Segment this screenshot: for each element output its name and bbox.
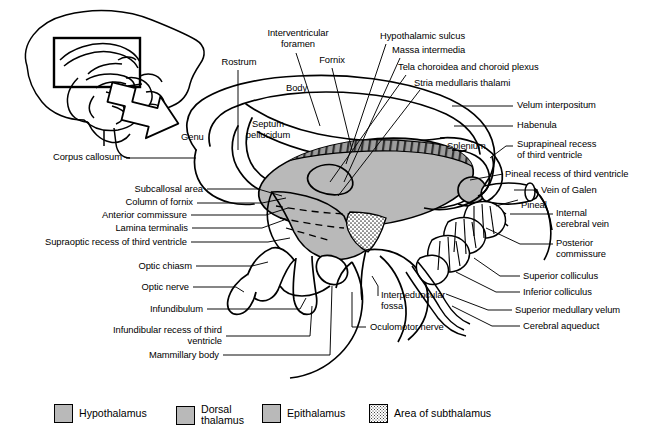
label-habenula: Habenula — [517, 120, 557, 131]
label-body: Body — [286, 83, 307, 94]
label-fornix: Fornix — [303, 55, 361, 66]
label-mammillary-body: Mammillary body — [0, 350, 219, 361]
legend-item-epithalamus: Epithalamus — [262, 404, 345, 423]
label-infundibulum: Infundibulum — [0, 304, 203, 315]
legend-swatch-area-of-subthalamus — [369, 404, 388, 423]
legend-item-hypothalamus: Hypothalamus — [54, 404, 147, 423]
label-superior-colliculus: Superior colliculus — [523, 271, 598, 282]
label-lamina-terminalis: Lamina terminalis — [0, 223, 188, 234]
legend-swatch-epithalamus — [262, 404, 281, 423]
label-anterior-commissure: Anterior commissure — [0, 210, 187, 221]
legend-item-area-of-subthalamus: Area of subthalamus — [369, 404, 491, 423]
label-posterior-commissure: Posterior commissure — [556, 238, 606, 259]
label-genu: Genu — [181, 132, 204, 143]
label-interventricular-foramen: Interventricular foramen — [246, 28, 350, 49]
label-interpeduncular-fossa: Interpeduncular fossa — [381, 290, 445, 311]
label-vein-of-galen: Vein of Galen — [541, 185, 597, 196]
label-velum-interpositum: Velum interpositum — [517, 100, 596, 111]
infundibulum — [293, 256, 317, 314]
label-septum-pellucidum: Septum pellucidum — [236, 119, 300, 140]
label-rostrum: Rostrum — [195, 57, 283, 68]
label-oculomotor-nerve: Oculomotor nerve — [370, 322, 444, 333]
label-infundibular-recess: Infundibular recess of third ventricle — [0, 325, 222, 346]
legend-item-dorsal-thalamus: Dorsal thalamus — [176, 404, 244, 427]
colliculi-group — [416, 202, 505, 285]
label-hypothalamic-sulcus: Hypothalamic sulcus — [380, 31, 465, 42]
anatomy-figure: Rostrum Interventricular foramen Fornix … — [0, 0, 647, 448]
legend-label-epithalamus: Epithalamus — [287, 408, 345, 419]
label-stria-medullaris-thalami: Stria medullaris thalami — [414, 78, 510, 89]
legend-swatch-dorsal-thalamus — [176, 406, 195, 425]
label-subcallosal-area: Subcallosal area — [0, 184, 203, 195]
label-internal-cerebral-vein: Internal cerebral vein — [556, 208, 609, 229]
inset-roi-box — [54, 38, 140, 87]
legend-label-area-of-subthalamus: Area of subthalamus — [394, 408, 491, 419]
inset-pointer-arrow — [101, 82, 184, 145]
label-massa-intermedia: Massa intermedia — [392, 45, 465, 56]
label-suprapineal-recess: Suprapineal recess of third ventricle — [517, 139, 596, 160]
label-pineal: Pineal — [521, 200, 547, 211]
label-cerebral-aqueduct: Cerebral aqueduct — [523, 321, 599, 332]
legend-label-hypothalamus: Hypothalamus — [79, 408, 147, 419]
label-supraoptic-recess: Supraoptic recess of third ventricle — [0, 237, 187, 248]
label-splenium: Splenium — [447, 141, 486, 152]
label-tela-choroidea: Tela choroidea and choroid plexus — [398, 62, 539, 73]
label-column-of-fornix: Column of fornix — [0, 197, 193, 208]
label-inferior-colliculus: Inferior colliculus — [523, 287, 592, 298]
label-corpus-callosum: Corpus callosum — [0, 152, 122, 163]
label-superior-medullary-velum: Superior medullary velum — [515, 305, 620, 316]
label-pineal-recess: Pineal recess of third ventricle — [505, 169, 628, 180]
label-optic-chiasm: Optic chiasm — [0, 261, 192, 272]
label-optic-nerve: Optic nerve — [0, 282, 189, 293]
legend-swatch-hypothalamus — [54, 404, 73, 423]
legend-label-dorsal-thalamus: Dorsal thalamus — [201, 404, 244, 427]
legend: Hypothalamus Dorsal thalamus Epithalamus… — [0, 396, 647, 440]
